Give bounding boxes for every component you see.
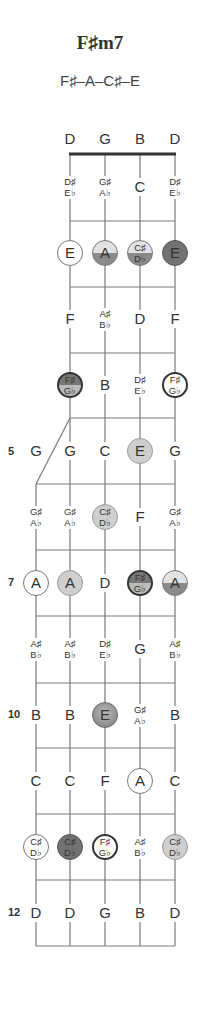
fret-note: A♯B♭ [55,634,85,664]
flat-label: B♭ [30,649,41,661]
sharp-label: A♯ [99,308,110,320]
sharp-label: D♯ [64,176,76,188]
flat-label: G♭ [64,385,76,397]
flat-label: G♭ [99,847,111,859]
note-label: A [65,574,75,592]
fret-note: A [90,238,120,268]
flat-label: E♭ [169,187,180,199]
fret-note: E [125,436,155,466]
fret-note: D♯E♭ [55,172,85,202]
sharp-label: C♯ [169,836,181,848]
chord-tone-marker: F♯G♭ [92,834,118,860]
chord-tone-marker: C♯D♭ [57,834,83,860]
fret-note: E [160,238,190,268]
fret-note: D♯E♭ [125,370,155,400]
note-label: E [135,442,145,460]
fret-note: G [21,436,51,466]
sharp-label: D♯ [134,374,146,386]
fret-note: A♯B♭ [90,304,120,334]
note-label: E [170,244,180,262]
sharp-label: F♯ [170,374,181,386]
note-label: C [65,772,76,790]
sharp-label: C♯ [134,242,146,254]
flat-label: B♭ [99,319,110,331]
fret-note: D [21,898,51,928]
note-label: C [31,772,42,790]
fret-note: E [55,238,85,268]
note-label: E [65,244,75,262]
note-label: B [135,904,145,922]
fret-note: B [21,700,51,730]
note-label: D [135,310,146,328]
fret-note: F♯G♭ [160,370,190,400]
note-label: D [65,904,76,922]
fret-note: A [125,766,155,796]
flat-label: A♭ [134,715,145,727]
fret-note: C [55,766,85,796]
fret-note: B [125,898,155,928]
chord-tone-marker: C♯D♭ [92,504,118,530]
note-label: C [170,772,181,790]
note-label: G [30,442,42,460]
flat-label: E♭ [64,187,75,199]
fret-note: F [160,304,190,334]
fret-note: F♯G♭ [90,832,120,862]
sharp-label: C♯ [30,836,42,848]
note-label: G [64,442,76,460]
chord-tone-marker: F♯G♭ [127,570,153,596]
sharp-label: D♯ [99,638,111,650]
sharp-label: A♯ [134,836,145,848]
note-label: A [170,574,180,592]
flat-label: B♭ [64,649,75,661]
flat-label: D♭ [64,847,76,859]
fret-note: F [55,304,85,334]
flat-label: D♭ [99,517,111,529]
chord-tone-marker: E [127,438,153,464]
sharp-label: A♯ [64,638,75,650]
fret-note: C [90,436,120,466]
fret-note: B [55,700,85,730]
fret-note: D [55,898,85,928]
chord-tone-marker: A [162,570,188,596]
sharp-label: G♯ [169,506,181,518]
chord-tone-marker: F♯G♭ [57,372,83,398]
fret-note: D♯E♭ [160,172,190,202]
chord-tone-marker: A [127,768,153,794]
flat-label: A♭ [30,517,41,529]
note-label: B [170,706,180,724]
chord-tone-marker: A [92,240,118,266]
fret-note: C [21,766,51,796]
note-label: B [65,706,75,724]
note-label: C [100,442,111,460]
fret-note: C♯D♭ [21,832,51,862]
note-label: A [31,574,41,592]
fret-note: C [125,172,155,202]
sharp-label: G♯ [134,704,146,716]
flat-label: A♭ [64,517,75,529]
chord-tone-marker: E [92,702,118,728]
flat-label: G♭ [134,583,146,595]
sharp-label: C♯ [64,836,76,848]
sharp-label: G♯ [99,176,111,188]
fret-note: C♯D♭ [90,502,120,532]
fret-note: G♯A♭ [90,172,120,202]
flat-label: D♭ [134,253,146,265]
fret-note: F♯G♭ [125,568,155,598]
note-label: A [100,244,110,262]
fret-note: C♯D♭ [125,238,155,268]
note-label: G [99,904,111,922]
sharp-label: F♯ [100,836,111,848]
fret-note: D [125,304,155,334]
fret-note: A♯B♭ [125,832,155,862]
fret-note: A [21,568,51,598]
fret-note: F♯G♭ [55,370,85,400]
note-label: F [100,772,109,790]
fret-note: A♯B♭ [21,634,51,664]
sharp-label: F♯ [135,572,146,584]
fret-note: G♯A♭ [55,502,85,532]
fret-note: G [125,634,155,664]
note-label: F [65,310,74,328]
fret-note: C♯D♭ [55,832,85,862]
fret-note: F [125,502,155,532]
sharp-label: A♯ [30,638,41,650]
